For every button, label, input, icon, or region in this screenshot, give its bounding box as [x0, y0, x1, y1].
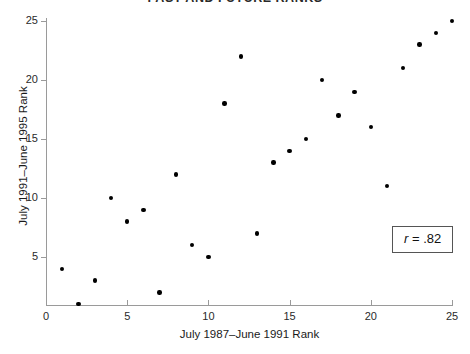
data-point — [174, 172, 178, 176]
data-point — [222, 101, 226, 105]
correlation-annotation: r = .82 — [392, 226, 453, 253]
data-point — [157, 290, 161, 294]
data-point — [450, 19, 454, 23]
correlation-equals: = — [408, 231, 423, 246]
data-point — [109, 196, 113, 200]
data-point — [190, 243, 194, 247]
y-axis-label: July 1991–June 1995 Rank — [17, 36, 29, 276]
data-point — [352, 90, 356, 94]
x-tick-label: 5 — [115, 311, 139, 322]
data-point — [287, 149, 291, 153]
plot-area — [46, 14, 452, 305]
data-point — [141, 208, 145, 212]
data-point — [304, 137, 308, 141]
chart-title: PAST AND FUTURE RANKS — [0, 0, 470, 4]
data-point — [417, 42, 421, 46]
x-tick-label: 0 — [34, 311, 58, 322]
data-point — [320, 78, 324, 82]
data-point — [369, 125, 373, 129]
x-axis-label: July 1987–June 1991 Rank — [46, 328, 453, 340]
x-axis-line — [46, 305, 453, 306]
data-point — [206, 255, 210, 259]
y-tick-label: 25 — [14, 15, 38, 26]
data-point — [239, 54, 243, 58]
data-point — [385, 184, 389, 188]
x-tick-mark — [452, 300, 453, 306]
data-point — [271, 160, 275, 164]
data-point — [60, 267, 64, 271]
data-point — [255, 231, 259, 235]
x-tick-label: 10 — [196, 311, 220, 322]
correlation-value: .82 — [423, 231, 441, 246]
x-tick-label: 25 — [440, 311, 464, 322]
data-point — [93, 278, 97, 282]
x-tick-label: 15 — [278, 311, 302, 322]
data-point — [401, 66, 405, 70]
data-point — [336, 113, 340, 117]
x-tick-label: 20 — [359, 311, 383, 322]
data-point — [76, 302, 80, 306]
scatter-plot-figure: PAST AND FUTURE RANKS 510152025 05101520… — [0, 0, 470, 354]
data-point — [125, 219, 129, 223]
data-point — [434, 31, 438, 35]
